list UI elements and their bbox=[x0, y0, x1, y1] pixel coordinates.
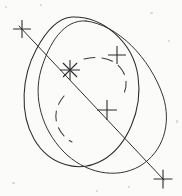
inner-ellipse-dashed-lower-arc bbox=[56, 96, 72, 142]
cross-mid-right-marker bbox=[98, 101, 117, 120]
major-axis-line bbox=[19, 26, 164, 180]
paper-noise bbox=[5, 4, 178, 192]
inner-ellipse-dashed-upper-arc bbox=[84, 57, 126, 97]
figure-canvas bbox=[0, 0, 182, 196]
hand-drawn-geometry-figure bbox=[0, 0, 182, 196]
outer-ellipse-lower bbox=[38, 21, 166, 173]
star-center-marker bbox=[61, 61, 80, 80]
